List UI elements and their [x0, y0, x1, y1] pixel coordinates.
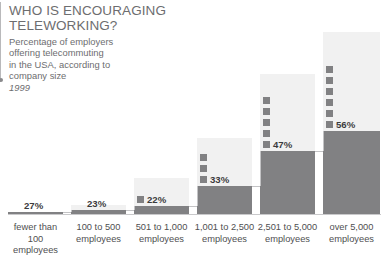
- connector-segment: [126, 210, 134, 211]
- connector-segment: [315, 151, 323, 152]
- category-label-line-1: 1,001 to 2,500: [193, 222, 256, 234]
- category-label-line-1: 2,501 to 5,000: [256, 222, 319, 234]
- category-label: 100 to 500employees: [67, 222, 130, 245]
- bar-value-fill: [323, 131, 380, 214]
- bar-value-label: 47%: [273, 139, 292, 150]
- bar-value-label: 33%: [210, 174, 229, 185]
- marker-square-icon: [263, 119, 270, 126]
- marker-square-icon: [200, 154, 207, 161]
- bar-marker-squares: [137, 196, 144, 203]
- category-label-line-1: 501 to 1,000: [130, 222, 193, 234]
- category-label-line-1: 100 to 500: [67, 222, 130, 234]
- bar-value-fill: [71, 210, 126, 214]
- category-label-line-1: over 5,000: [319, 222, 384, 234]
- connector-segment: [71, 210, 72, 212]
- marker-square-icon: [263, 130, 270, 137]
- connector-segment: [323, 131, 324, 151]
- marker-square-icon: [326, 66, 333, 73]
- marker-square-icon: [326, 99, 333, 106]
- category-label-line-2: 100 employees: [4, 234, 67, 257]
- bar-value-fill: [8, 212, 63, 214]
- bar-value-fill: [134, 206, 189, 214]
- marker-square-icon: [263, 108, 270, 115]
- marker-square-icon: [326, 110, 333, 117]
- bar-group[interactable]: [8, 212, 63, 214]
- bar-value-fill: [197, 186, 252, 214]
- connector-segment: [260, 151, 261, 186]
- connector-segment: [189, 206, 197, 207]
- chart-baseline: [8, 214, 381, 215]
- marker-square-icon: [263, 141, 270, 148]
- category-label: 501 to 1,000employees: [130, 222, 193, 245]
- bar-value-label: 56%: [336, 119, 355, 130]
- category-label: 2,501 to 5,000employees: [256, 222, 319, 245]
- connector-segment: [134, 206, 135, 210]
- category-label-line-2: employees: [130, 234, 193, 246]
- bar-marker-squares: [263, 97, 270, 148]
- marker-square-icon: [200, 176, 207, 183]
- bar-value-fill: [260, 151, 315, 214]
- bar-value-label: 22%: [147, 194, 166, 205]
- connector-segment: [252, 186, 260, 187]
- marker-square-icon: [326, 77, 333, 84]
- category-label-line-2: employees: [256, 234, 319, 246]
- category-label-line-2: employees: [67, 234, 130, 246]
- connector-segment: [197, 186, 198, 206]
- category-label-line-2: employees: [319, 234, 384, 246]
- category-label: over 5,000employees: [319, 222, 384, 245]
- connector-segment: [63, 212, 71, 213]
- category-axis: fewer than100 employees100 to 500employe…: [0, 222, 389, 251]
- bar-value-label: 27%: [24, 200, 43, 211]
- bar-value-label: 23%: [87, 198, 106, 209]
- marker-square-icon: [137, 196, 144, 203]
- category-label: fewer than100 employees: [4, 222, 67, 257]
- category-label-line-1: fewer than: [4, 222, 67, 234]
- category-label: 1,001 to 2,500employees: [193, 222, 256, 245]
- bar-marker-squares: [326, 66, 333, 128]
- marker-square-icon: [200, 165, 207, 172]
- category-label-line-2: employees: [193, 234, 256, 246]
- bar-marker-squares: [200, 154, 207, 183]
- marker-square-icon: [326, 88, 333, 95]
- marker-square-icon: [263, 97, 270, 104]
- marker-square-icon: [326, 121, 333, 128]
